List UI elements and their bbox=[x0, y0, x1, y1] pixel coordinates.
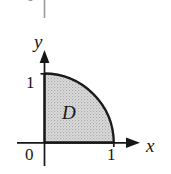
y-axis-label: y bbox=[34, 32, 42, 51]
origin-label: 0 bbox=[25, 146, 34, 163]
x-axis-arrowhead bbox=[126, 138, 140, 148]
region-d-label: D bbox=[62, 103, 76, 122]
y-axis-tick-label-1: 1 bbox=[26, 74, 35, 91]
x-axis-tick-label-1: 1 bbox=[107, 146, 116, 163]
x-axis-label: x bbox=[146, 136, 154, 155]
fragment-zero-glyph: 0 bbox=[26, 0, 35, 4]
fragment-one-glyph: 1 bbox=[103, 0, 112, 1]
figure-canvas: 0 1 y x 1 0 1 D bbox=[0, 0, 171, 174]
